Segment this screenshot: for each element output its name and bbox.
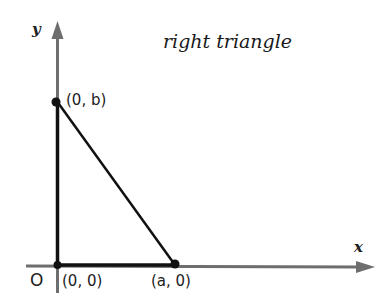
triangle-diagram: y x right triangle O (0, 0) (0, b) (a, 0… [0,0,381,305]
point-origin [54,261,62,269]
x-axis-label: x [353,238,364,256]
point-a-0 [171,260,180,269]
point-0-b [52,98,61,107]
triangle-hypotenuse [58,102,176,265]
origin-label: O [30,270,43,290]
point-label-0-b: (0, b) [66,91,106,109]
point-label-a-0: (a, 0) [151,272,191,290]
y-axis-label: y [31,20,42,38]
point-label-origin: (0, 0) [62,272,102,290]
x-axis-arrow-icon [356,261,375,273]
diagram-title: right triangle [163,30,292,52]
y-axis-arrow-icon [52,21,64,39]
